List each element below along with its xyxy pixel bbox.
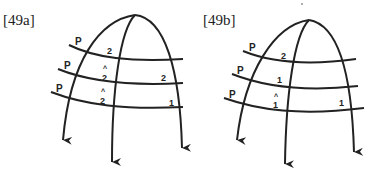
tone-number: 1 bbox=[169, 98, 174, 108]
tone-number: 2 bbox=[107, 46, 112, 56]
middle-branch-arrow bbox=[285, 20, 309, 164]
figure-49a bbox=[51, 15, 183, 162]
stray-dot bbox=[301, 3, 303, 5]
hat-mark: ^ bbox=[103, 65, 107, 72]
p-label: P bbox=[237, 65, 244, 76]
middle-branch-arrow bbox=[112, 15, 135, 162]
tier-line-2 bbox=[232, 74, 358, 89]
p-label: P bbox=[75, 36, 82, 47]
figure-49b bbox=[224, 20, 364, 164]
tone-number: 2 bbox=[100, 96, 105, 106]
tone-number: 2 bbox=[281, 51, 286, 61]
tone-number: 1 bbox=[339, 98, 344, 108]
diagram-canvas: P P P 2 ^ 2 2 ^ 2 1 P P P 2 1 ^ 1 1 bbox=[0, 0, 366, 174]
right-branch-arrow bbox=[135, 15, 182, 148]
p-label: P bbox=[56, 83, 63, 94]
tone-number: 2 bbox=[102, 73, 107, 83]
tone-number: 1 bbox=[277, 75, 282, 85]
tone-number: 1 bbox=[273, 100, 278, 110]
right-branch-arrow bbox=[309, 20, 354, 152]
p-label: P bbox=[64, 60, 71, 71]
hat-mark: ^ bbox=[274, 93, 278, 100]
tone-number: 2 bbox=[161, 73, 166, 83]
hat-mark: ^ bbox=[101, 88, 105, 95]
p-label: P bbox=[249, 42, 256, 53]
p-label: P bbox=[229, 89, 236, 100]
